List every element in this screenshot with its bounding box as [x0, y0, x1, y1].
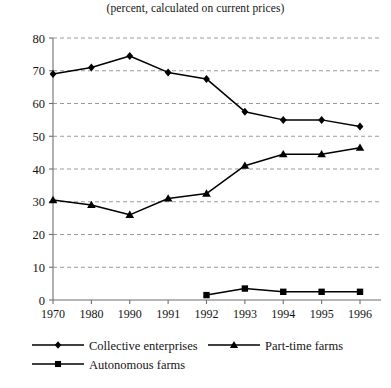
x-tick-label: 1992 [195, 307, 219, 321]
y-tick-label: 70 [33, 64, 46, 78]
chart-container: (percent, calculated on current prices) … [0, 0, 391, 388]
chart-legend: Collective enterprisesPart-time farmsAut… [32, 339, 343, 372]
series-markers [49, 52, 365, 298]
series-line [53, 56, 360, 126]
data-point-square [318, 289, 324, 295]
chart-plot: 01020304050607080 1970198019901991199219… [0, 0, 391, 388]
x-tick-label: 1993 [233, 307, 257, 321]
data-point-diamond [88, 63, 95, 71]
series-lines [53, 56, 360, 295]
y-tick-label: 40 [33, 163, 46, 177]
y-axis-ticks: 01020304050607080 [33, 32, 54, 308]
x-tick-label: 1996 [348, 307, 372, 321]
data-point-triangle [49, 196, 58, 203]
data-point-diamond [280, 116, 287, 124]
data-point-triangle [356, 143, 365, 150]
y-tick-label: 30 [33, 195, 46, 209]
data-point-square [55, 361, 61, 367]
data-point-square [242, 285, 248, 291]
y-tick-label: 50 [33, 130, 46, 144]
x-tick-label: 1970 [41, 307, 65, 321]
data-point-triangle [202, 189, 211, 196]
legend-label: Autonomous farms [89, 358, 185, 372]
data-point-square [357, 289, 363, 295]
x-tick-label: 1991 [156, 307, 180, 321]
data-point-diamond [318, 116, 325, 124]
legend-label: Part-time farms [265, 339, 343, 353]
y-tick-label: 60 [33, 97, 46, 111]
x-tick-label: 1994 [271, 307, 295, 321]
legend-label: Collective enterprises [89, 339, 198, 353]
data-point-diamond [165, 68, 172, 76]
series-line [53, 148, 360, 215]
data-point-square [280, 289, 286, 295]
x-tick-label: 1995 [310, 307, 334, 321]
data-point-square [203, 292, 209, 298]
data-point-diamond [357, 122, 364, 130]
y-tick-label: 20 [33, 228, 46, 242]
y-tick-label: 10 [33, 261, 46, 275]
x-tick-label: 1990 [118, 307, 142, 321]
data-point-diamond [126, 52, 133, 60]
x-axis-ticks: 197019801990199119921993199419951996 [41, 300, 372, 321]
x-tick-label: 1980 [79, 307, 103, 321]
y-tick-label: 80 [33, 32, 46, 46]
y-tick-label: 0 [39, 294, 45, 308]
data-point-diamond [55, 341, 61, 349]
